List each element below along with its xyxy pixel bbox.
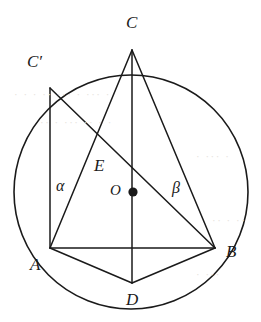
point-label-D: D	[126, 291, 138, 308]
center-point-dot	[128, 187, 137, 196]
point-label-O: O	[110, 183, 121, 198]
geometry-figure: · · · ·· ··· · ··· ··· · ··· ·· · ·· ···…	[0, 0, 261, 322]
point-label-C: C	[126, 14, 137, 31]
angle-label-beta: β	[172, 180, 180, 196]
segment-c-b	[132, 50, 215, 248]
segment-group	[50, 50, 215, 283]
segment-a-d	[50, 248, 132, 283]
point-label-E: E	[94, 157, 104, 174]
segment-c-a	[50, 50, 132, 248]
point-label-C-prime: C′	[27, 53, 42, 70]
segment-d-b	[132, 248, 215, 283]
point-label-B: B	[226, 243, 236, 260]
point-label-A: A	[30, 256, 40, 273]
angle-label-alpha: α	[56, 178, 64, 194]
